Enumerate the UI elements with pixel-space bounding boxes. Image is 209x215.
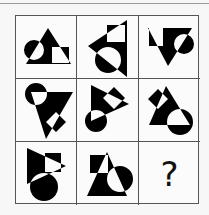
figure-triangle-circle-square (16, 16, 78, 79)
cell-r1-c2[interactable] (139, 79, 200, 142)
cell-r2-c2-answer[interactable]: ? (139, 142, 200, 205)
figure-triangle-circle-square (16, 142, 78, 205)
figure-triangle-circle-square (16, 79, 78, 142)
cell-r1-c1[interactable] (77, 79, 139, 142)
figure-triangle-circle-square (139, 16, 201, 79)
figure-triangle-circle-square (77, 16, 139, 79)
question-mark: ? (139, 142, 200, 205)
figure-triangle-circle-square (139, 79, 201, 142)
cell-r2-c0[interactable] (16, 142, 77, 205)
cell-r2-c1[interactable] (77, 142, 139, 205)
cell-r0-c1[interactable] (77, 16, 139, 79)
figure-triangle-circle-square (77, 142, 139, 205)
figure-triangle-circle-square (77, 79, 139, 142)
cell-r1-c0[interactable] (16, 79, 77, 142)
puzzle-grid: ? (15, 15, 199, 204)
top-rule (0, 3, 209, 4)
cell-r0-c0[interactable] (16, 16, 77, 79)
cell-r0-c2[interactable] (139, 16, 200, 79)
